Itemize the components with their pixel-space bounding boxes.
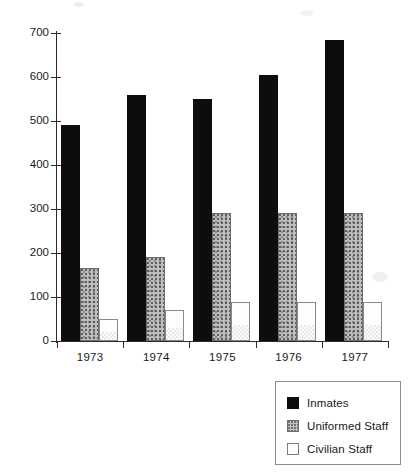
legend-item-uniformed-staff: Uniformed Staff xyxy=(287,414,400,437)
bar-civilian-1976 xyxy=(297,302,316,341)
bar-uniformed-1973 xyxy=(80,268,99,341)
x-axis-line xyxy=(56,341,389,342)
chart-legend: Inmates Uniformed Staff Civilian Staff xyxy=(275,381,401,465)
scan-artifact xyxy=(300,10,314,16)
bar-inmates-1977 xyxy=(325,40,344,341)
legend-swatch-civilian-staff xyxy=(287,443,299,455)
x-tick xyxy=(322,341,323,348)
x-tick-label-1975: 1975 xyxy=(189,351,255,363)
x-tick-label-1974: 1974 xyxy=(123,351,189,363)
bar-civilian-1975 xyxy=(231,302,250,341)
y-tick-label: 700 xyxy=(0,26,49,38)
plot-area xyxy=(57,33,388,341)
x-tick-label-1976: 1976 xyxy=(256,351,322,363)
bar-civilian-1974 xyxy=(165,310,184,341)
y-tick-label: 400 xyxy=(0,158,49,170)
y-tick xyxy=(51,341,61,342)
bar-uniformed-1976 xyxy=(278,213,297,341)
legend-item-inmates: Inmates xyxy=(287,391,400,414)
bar-inmates-1974 xyxy=(127,95,146,341)
legend-swatch-uniformed-staff xyxy=(287,420,299,432)
legend-label-civilian-staff: Civilian Staff xyxy=(307,443,372,455)
y-tick-label: 300 xyxy=(0,202,49,214)
x-tick xyxy=(388,341,389,348)
y-tick-label: 0 xyxy=(0,334,49,346)
x-tick-label-1977: 1977 xyxy=(322,351,388,363)
legend-label-uniformed-staff: Uniformed Staff xyxy=(307,420,388,432)
bar-inmates-1975 xyxy=(193,99,212,341)
legend-label-inmates: Inmates xyxy=(307,397,349,409)
x-tick xyxy=(189,341,190,348)
bar-chart-figure: 0100200300400500600700 19731974197519761… xyxy=(0,0,412,476)
bar-uniformed-1977 xyxy=(344,213,363,341)
y-tick-label: 500 xyxy=(0,114,49,126)
x-tick xyxy=(256,341,257,348)
bar-civilian-1973 xyxy=(99,319,118,341)
scan-artifact xyxy=(74,2,84,7)
bar-uniformed-1975 xyxy=(212,213,231,341)
legend-item-civilian-staff: Civilian Staff xyxy=(287,437,400,460)
bar-civilian-1977 xyxy=(363,302,382,341)
x-tick-label-1973: 1973 xyxy=(57,351,123,363)
x-tick xyxy=(57,341,58,348)
y-tick-label: 200 xyxy=(0,246,49,258)
bar-inmates-1976 xyxy=(259,75,278,341)
bar-inmates-1973 xyxy=(61,125,80,341)
bar-uniformed-1974 xyxy=(146,257,165,341)
y-tick-label: 600 xyxy=(0,70,49,82)
y-tick-label: 100 xyxy=(0,290,49,302)
legend-swatch-inmates xyxy=(287,397,299,409)
x-tick xyxy=(123,341,124,348)
